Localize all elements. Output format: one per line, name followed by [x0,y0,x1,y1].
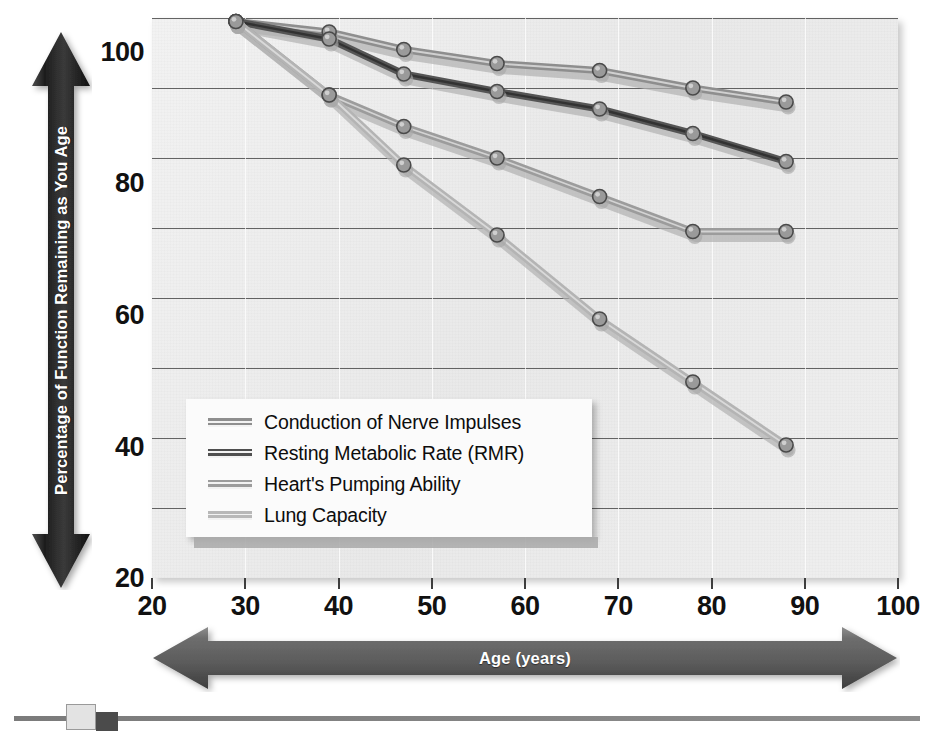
x-tick-label: 80 [697,591,726,622]
data-point-highlight [688,227,693,232]
data-point-marker[interactable] [779,438,793,452]
data-point-marker[interactable] [397,158,411,172]
legend-swatch-icon [208,418,252,427]
data-point-marker[interactable] [686,375,700,389]
legend-item-label: Lung Capacity [264,504,387,527]
data-point-highlight [399,69,404,74]
y-axis-tick-labels: 100 80 60 40 20 [92,0,150,620]
data-point-highlight [493,153,498,158]
x-tick-mark [617,578,619,589]
data-point-highlight [595,314,600,319]
x-axis-tick-labels: 2030405060708090100 [0,578,934,624]
data-point-marker[interactable] [779,95,793,109]
x-tick-label: 20 [137,591,166,622]
x-tick-mark [338,578,340,589]
data-point-marker[interactable] [490,151,504,165]
data-point-highlight [399,160,404,165]
data-point-highlight [399,45,404,50]
slider-track[interactable] [14,716,920,721]
data-point-highlight [595,66,600,71]
data-point-marker[interactable] [490,57,504,71]
x-tick-mark [431,578,433,589]
data-point-marker[interactable] [686,127,700,141]
data-point-highlight [595,192,600,197]
data-point-marker[interactable] [397,43,411,57]
legend-item[interactable]: Heart's Pumping Ability [186,469,592,500]
x-tick-label: 70 [604,591,633,622]
legend-swatch-icon [208,449,252,458]
data-point-highlight [782,157,787,162]
legend-swatch-icon [208,480,252,489]
series-line [236,22,786,232]
legend-item-label: Resting Metabolic Rate (RMR) [264,442,524,465]
data-point-marker[interactable] [593,312,607,326]
data-point-highlight [782,227,787,232]
x-tick-label: 30 [231,591,260,622]
data-point-highlight [325,90,330,95]
series-line-highlight [236,22,786,232]
data-point-highlight [782,440,787,445]
data-point-marker[interactable] [779,225,793,239]
legend-item[interactable]: Resting Metabolic Rate (RMR) [186,438,592,469]
data-point-marker[interactable] [779,155,793,169]
x-tick-label: 100 [876,591,920,622]
x-tick-mark [804,578,806,589]
y-tick-label: 60 [115,300,144,331]
data-point-marker[interactable] [593,190,607,204]
data-point-highlight [688,377,693,382]
x-tick-mark [897,578,899,589]
data-point-highlight [493,230,498,235]
x-tick-mark [244,578,246,589]
legend-shadow [194,537,598,548]
legend-item[interactable]: Conduction of Nerve Impulses [186,407,592,438]
data-point-highlight [399,122,404,127]
data-point-highlight [688,129,693,134]
x-tick-label: 40 [324,591,353,622]
x-tick-label: 50 [417,591,446,622]
x-tick-mark [711,578,713,589]
aging-function-chart-figure: Percentage of Function Remaining as You … [0,0,934,740]
data-point-marker[interactable] [686,225,700,239]
data-point-marker[interactable] [593,102,607,116]
data-point-highlight [325,34,330,39]
data-point-marker[interactable] [397,67,411,81]
y-axis-arrow: Percentage of Function Remaining as You … [30,30,92,590]
legend-swatch-icon [208,511,252,520]
data-point-marker[interactable] [686,81,700,95]
y-tick-label: 100 [100,37,144,68]
y-tick-label: 80 [115,168,144,199]
x-tick-mark [151,578,153,589]
legend-item-label: Conduction of Nerve Impulses [264,411,521,434]
y-tick-label: 40 [115,432,144,463]
chart-legend: Conduction of Nerve Impulses Resting Met… [186,399,592,537]
data-point-marker[interactable] [229,15,243,29]
slider-handle-light[interactable] [66,704,96,730]
data-point-marker[interactable] [322,32,336,46]
data-point-marker[interactable] [490,85,504,99]
data-point-highlight [595,104,600,109]
data-point-highlight [232,17,237,22]
x-axis-arrow: Age (years) [150,624,900,692]
data-point-highlight [688,83,693,88]
x-tick-mark [524,578,526,589]
data-point-marker[interactable] [593,64,607,78]
series-line-shadow [239,28,789,238]
data-point-highlight [493,87,498,92]
data-point-marker[interactable] [490,228,504,242]
data-point-highlight [493,59,498,64]
x-tick-label: 60 [510,591,539,622]
data-point-highlight [782,97,787,102]
data-point-marker[interactable] [322,88,336,102]
x-tick-label: 90 [790,591,819,622]
legend-item[interactable]: Lung Capacity [186,500,592,531]
bottom-slider[interactable] [0,700,934,740]
legend-item-label: Heart's Pumping Ability [264,473,460,496]
data-point-marker[interactable] [397,120,411,134]
slider-handle-dark[interactable] [96,712,118,731]
